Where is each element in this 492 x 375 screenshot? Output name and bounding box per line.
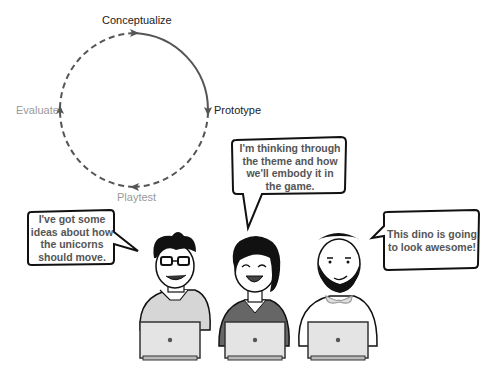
speech-text-1: I've got some ideas about how the unicor… bbox=[30, 213, 114, 263]
stage-label-prototype: Prototype bbox=[214, 104, 261, 116]
stage-label-evaluate: Evaluate bbox=[16, 104, 59, 116]
cycle-arc-playtest-evaluate bbox=[60, 112, 134, 187]
cycle-arc-prototype-playtest bbox=[134, 112, 208, 187]
character-glasses-guy bbox=[140, 232, 210, 360]
speech-text-3: This dino is going to look awesome! bbox=[386, 228, 478, 253]
cycle-arc-conceptualize-prototype bbox=[134, 33, 208, 110]
stage-label-conceptualize: Conceptualize bbox=[102, 14, 172, 26]
cycle-arc-evaluate-conceptualize bbox=[60, 33, 134, 108]
character-woman bbox=[219, 236, 289, 360]
speech-text-2: I'm thinking through the theme and how w… bbox=[234, 142, 346, 192]
design-cycle-illustration: Conceptualize Prototype Playtest Evaluat… bbox=[0, 0, 492, 375]
character-bearded-guy bbox=[299, 233, 377, 360]
stage-label-playtest: Playtest bbox=[117, 191, 156, 203]
